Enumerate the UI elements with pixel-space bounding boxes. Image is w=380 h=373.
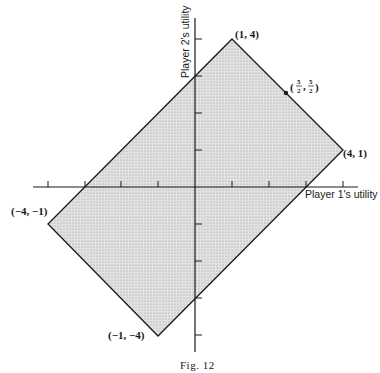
point-label: ( 5 2 , 5 2 )	[290, 78, 319, 95]
svg-text:,: ,	[303, 80, 306, 92]
svg-text:2: 2	[297, 87, 301, 95]
svg-text:5: 5	[297, 78, 301, 86]
vertex-label-1-4: (1, 4)	[235, 28, 259, 41]
point-marker	[284, 91, 288, 95]
svg-text:): )	[315, 81, 319, 94]
svg-text:5: 5	[309, 78, 313, 86]
vertex-label-4-1: (4, 1)	[343, 147, 367, 160]
y-axis-label: Player 2's utility	[179, 5, 191, 78]
x-axis-label: Player 1's utility	[305, 188, 378, 200]
figure-caption: Fig. 12	[180, 359, 215, 371]
vertex-label-neg4-neg1: (−4, −1)	[11, 205, 48, 218]
payoff-diagram: Player 2's utility Player 1's utility (1…	[0, 0, 380, 373]
vertex-label-neg1-neg4: (−1, −4)	[108, 329, 145, 342]
svg-text:2: 2	[309, 87, 313, 95]
svg-text:(: (	[290, 81, 294, 94]
